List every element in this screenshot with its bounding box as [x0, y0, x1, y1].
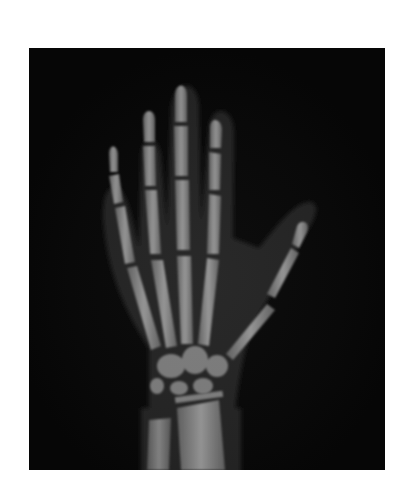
hand-xray-image: Hand X-ray radiograph — [29, 48, 385, 470]
xray-drawing — [29, 48, 385, 470]
